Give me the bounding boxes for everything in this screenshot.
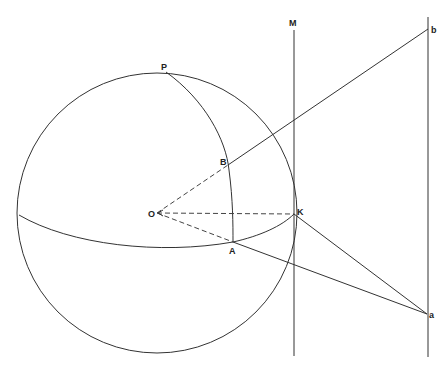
line-Aa — [233, 242, 427, 314]
equator-arc — [19, 214, 294, 248]
line-Bb — [228, 29, 428, 165]
radius-OB — [157, 165, 228, 213]
label-b: b — [431, 25, 437, 35]
label-a: a — [429, 310, 435, 320]
label-P: P — [161, 62, 167, 72]
label-B: B — [220, 157, 227, 167]
radius-OA — [157, 213, 233, 242]
label-A: A — [229, 246, 236, 256]
label-O: O — [148, 209, 155, 219]
label-M: M — [289, 18, 297, 28]
sphere-diagram: P M b B O K A a — [0, 0, 448, 373]
radius-OK — [157, 213, 294, 214]
line-Ka — [294, 214, 427, 314]
label-K: K — [297, 207, 304, 217]
